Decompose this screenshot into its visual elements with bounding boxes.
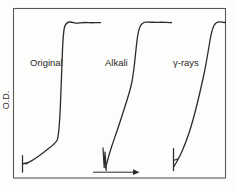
trace-gamma-rays [174, 22, 226, 171]
trace-label-gamma-rays: γ-rays [173, 57, 199, 68]
arrow-head-icon [133, 169, 140, 175]
plot-frame [14, 9, 226, 179]
curve-original [23, 22, 101, 164]
trace-label-original: Original [30, 57, 63, 68]
curve-gamma-rays [174, 22, 225, 167]
plot-canvas: Original Alkali γ-rays O.D. [0, 0, 237, 191]
trace-label-alkali: Alkali [105, 57, 128, 68]
baseline-tick-gamma [174, 149, 178, 171]
trace-alkali [103, 22, 172, 170]
curve-alkali [106, 22, 172, 168]
optical-density-scan-figure: Original Alkali γ-rays O.D. [0, 0, 237, 191]
trace-original [23, 22, 101, 172]
y-axis-label: O.D. [1, 91, 11, 110]
migration-direction-arrow [93, 169, 140, 175]
